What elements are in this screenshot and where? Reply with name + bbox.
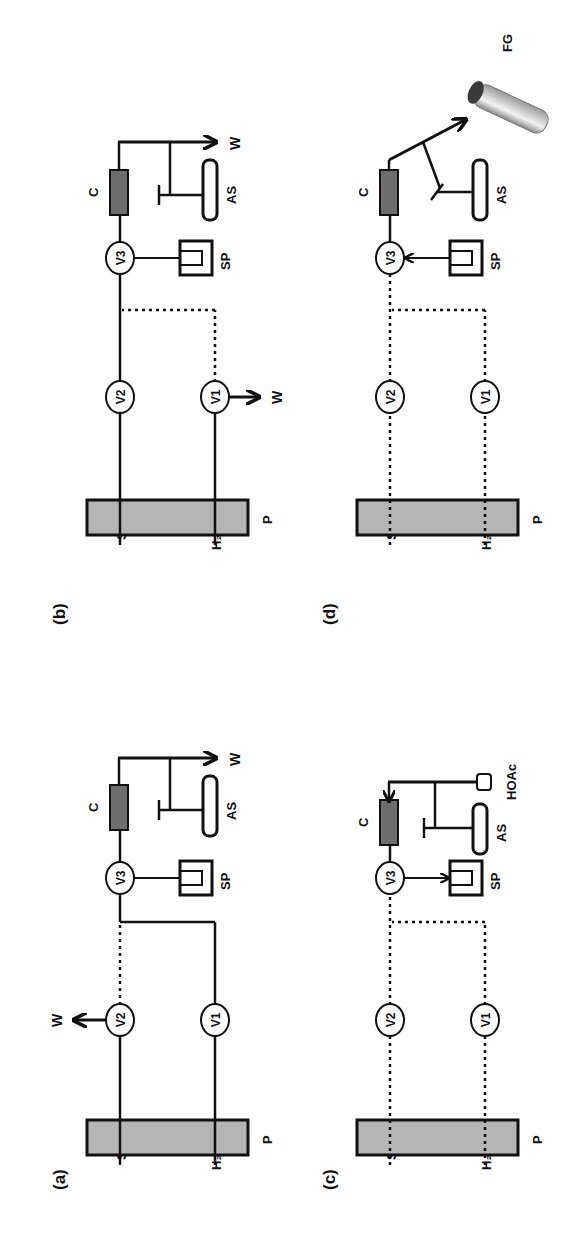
valve-label: V1 (209, 1012, 223, 1027)
pump-P (357, 500, 518, 535)
panel-label: (c) (320, 1169, 339, 1190)
valve-label: V2 (384, 389, 398, 404)
waste-label: W (227, 136, 243, 150)
waste-label: W (269, 390, 285, 404)
autosampler-label: AS (224, 186, 239, 204)
autosampler-AS (203, 160, 217, 220)
column-C (380, 170, 398, 215)
waste-label: W (49, 1013, 65, 1027)
valve-label: V1 (479, 1012, 493, 1027)
sample-probe-label: SP (488, 872, 503, 890)
panel-c: (c) S H₂O P V2 V1 V3 SP C AS HOAc (320, 764, 545, 1190)
autosampler-AS (473, 804, 487, 854)
pump-P (87, 500, 248, 535)
panel-b: (b) S H₂O P V2 V1 W V3 SP C W AS (50, 136, 285, 625)
sample-probe-SP (450, 861, 482, 895)
valve-label: V3 (384, 250, 398, 265)
panel-label: (b) (50, 603, 69, 625)
falcon-tube-FG (464, 79, 551, 137)
valve-label: V3 (114, 870, 128, 885)
valve-label: V2 (114, 1012, 128, 1027)
column-C (110, 785, 128, 830)
valve-label: V3 (384, 870, 398, 885)
collector-label: FG (500, 34, 515, 52)
valve-label: V3 (114, 250, 128, 265)
pump-label: P (530, 515, 545, 524)
sample-probe-SP (180, 241, 212, 275)
valve-label: V1 (209, 389, 223, 404)
autosampler-label: AS (224, 802, 239, 820)
pump-label: P (260, 515, 275, 524)
valve-label: V2 (114, 389, 128, 404)
sample-probe-SP (450, 241, 482, 275)
sample-probe-label: SP (488, 252, 503, 270)
column-C (110, 170, 128, 215)
panel-label: (a) (50, 1169, 69, 1190)
panel-d: (d) S H₂O P V2 V1 V3 SP C AS FG (320, 34, 551, 625)
valve-label: V2 (384, 1012, 398, 1027)
column-C (380, 800, 398, 845)
column-label: C (356, 187, 371, 197)
panel-label: (d) (320, 603, 339, 625)
panel-a: (a) S H₂O P V2 W V1 V3 SP C W (49, 752, 275, 1190)
waste-label: W (227, 752, 243, 766)
pump-P (357, 1120, 518, 1155)
flow-diagram: (a) S H₂O P V2 W V1 V3 SP C W (0, 0, 585, 1240)
pump-P (87, 1120, 248, 1155)
reagent-label: HOAc (504, 764, 519, 800)
column-label: C (356, 817, 371, 827)
pump-label: P (530, 1135, 545, 1144)
sample-probe-SP (180, 861, 212, 895)
diagram-canvas-rotated: (a) S H₂O P V2 W V1 V3 SP C W (0, 0, 585, 1240)
sample-probe-label: SP (218, 252, 233, 270)
column-label: C (86, 802, 101, 812)
column-label: C (86, 187, 101, 197)
sample-probe-label: SP (218, 872, 233, 890)
autosampler-AS (473, 160, 487, 220)
pump-label: P (260, 1135, 275, 1144)
valve-label: V1 (479, 389, 493, 404)
autosampler-label: AS (494, 824, 509, 842)
autosampler-AS (203, 776, 217, 836)
reagent-vial-HOAc (477, 774, 491, 790)
autosampler-label: AS (494, 186, 509, 204)
